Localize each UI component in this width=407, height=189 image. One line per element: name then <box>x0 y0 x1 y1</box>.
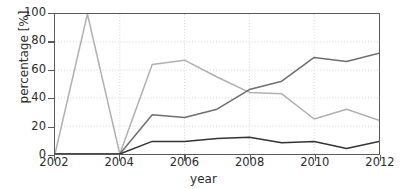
y-tick-label: 100 <box>0 7 46 19</box>
chart-figure: percentage [%] year 020406080100 2002200… <box>0 0 407 189</box>
x-tick-mark <box>54 155 55 161</box>
x-axis-label: year <box>0 172 407 186</box>
series-line-series-light <box>55 14 379 154</box>
data-series-layer <box>55 14 379 154</box>
y-tick-label: 60 <box>0 64 46 76</box>
series-line-series-dark <box>55 137 379 154</box>
plot-area <box>54 13 380 155</box>
x-tick-mark <box>250 155 251 161</box>
x-tick-mark <box>184 155 185 161</box>
y-tick-label: 80 <box>0 35 46 47</box>
x-tick-label: 2012 <box>350 157 407 169</box>
x-tick-mark <box>380 155 381 161</box>
x-tick-mark <box>315 155 316 161</box>
y-tick-label: 20 <box>0 121 46 133</box>
y-tick-label: 40 <box>0 92 46 104</box>
x-tick-mark <box>119 155 120 161</box>
